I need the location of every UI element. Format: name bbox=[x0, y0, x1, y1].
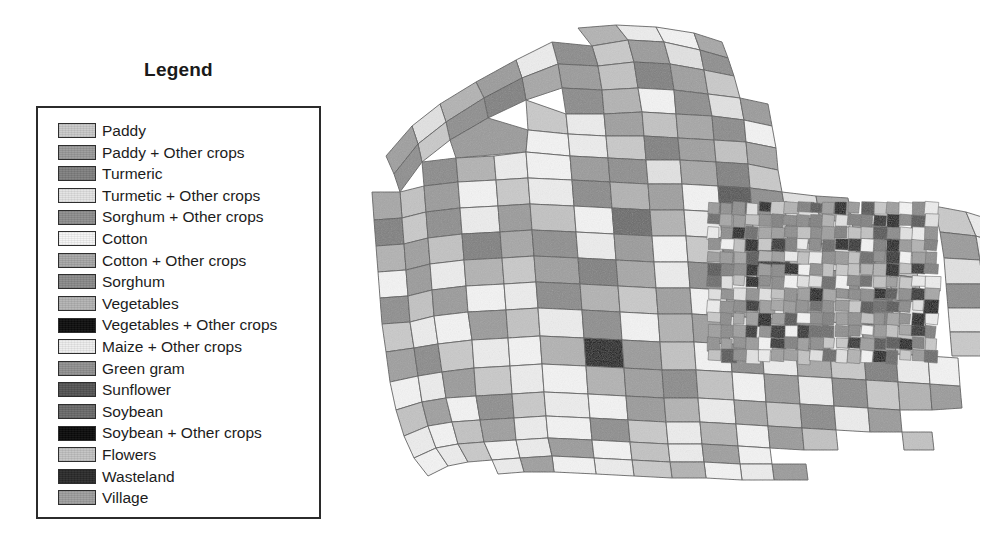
map-parcel bbox=[860, 214, 872, 226]
map-parcel bbox=[950, 332, 980, 356]
map-parcel bbox=[873, 226, 888, 240]
map-parcel bbox=[836, 288, 848, 298]
map-parcel bbox=[494, 152, 528, 180]
map-parcel bbox=[708, 350, 721, 361]
legend-item-label: Green gram bbox=[102, 361, 185, 377]
map-parcel bbox=[848, 264, 860, 277]
map-parcel bbox=[745, 239, 758, 252]
map-parcel bbox=[911, 288, 925, 302]
legend-swatch bbox=[58, 404, 96, 419]
map-parcel bbox=[746, 276, 759, 287]
map-parcel bbox=[526, 130, 570, 156]
map-parcel bbox=[540, 336, 586, 366]
map-parcel bbox=[823, 263, 835, 278]
map-parcel bbox=[707, 252, 720, 263]
map-parcel bbox=[899, 338, 913, 350]
map-parcel bbox=[588, 394, 628, 420]
legend-item-label: Sunflower bbox=[102, 382, 171, 398]
map-parcel bbox=[848, 252, 860, 265]
legend-item-label: Soybean + Other crops bbox=[102, 425, 262, 441]
map-parcel bbox=[771, 289, 785, 300]
legend-title: Legend bbox=[36, 59, 321, 81]
map-parcel bbox=[798, 350, 810, 365]
legend-swatch bbox=[58, 447, 96, 462]
map-parcel bbox=[422, 158, 458, 186]
map-parcel bbox=[925, 325, 936, 338]
map-parcel bbox=[823, 289, 837, 302]
map-parcel bbox=[746, 264, 758, 276]
swatch-texture bbox=[59, 189, 95, 202]
legend-item: Village bbox=[58, 487, 313, 509]
map-parcel bbox=[504, 282, 538, 310]
map-parcel bbox=[510, 364, 544, 394]
swatch-texture bbox=[59, 146, 95, 159]
legend-swatch bbox=[58, 469, 96, 484]
map-parcel bbox=[834, 226, 847, 238]
map-parcel bbox=[508, 336, 542, 366]
map-parcel bbox=[414, 344, 442, 376]
map-parcel bbox=[810, 288, 823, 302]
legend-item: Soybean + Other crops bbox=[58, 422, 313, 444]
map-parcel bbox=[378, 270, 408, 298]
map-parcel bbox=[800, 404, 836, 430]
map-parcel bbox=[638, 88, 676, 114]
map-parcel bbox=[746, 325, 758, 339]
map-parcel bbox=[798, 376, 834, 406]
legend-item-label: Sorghum + Other crops bbox=[102, 209, 264, 225]
map-parcel bbox=[847, 349, 861, 364]
map-parcel bbox=[698, 398, 736, 424]
map-parcel bbox=[911, 276, 926, 287]
map-parcel bbox=[492, 458, 524, 474]
legend-item: Flowers bbox=[58, 444, 313, 466]
map-parcel bbox=[868, 408, 902, 432]
legend-swatch bbox=[58, 296, 96, 311]
map-parcel bbox=[622, 340, 662, 370]
map-parcel bbox=[618, 286, 658, 314]
map-parcel bbox=[925, 214, 939, 228]
map-parcel bbox=[873, 251, 885, 262]
map-parcel bbox=[534, 256, 580, 284]
map-parcel bbox=[758, 251, 773, 262]
map-parcel bbox=[772, 239, 787, 250]
map-parcel bbox=[612, 208, 652, 236]
map-parcel bbox=[424, 182, 460, 212]
map-parcel bbox=[532, 230, 578, 258]
map-container bbox=[316, 6, 980, 546]
map-parcel bbox=[658, 314, 694, 342]
map-parcel bbox=[821, 226, 835, 241]
legend-item: Paddy bbox=[58, 120, 313, 142]
map-parcel bbox=[886, 350, 898, 364]
map-parcel bbox=[721, 276, 732, 289]
map-parcel bbox=[861, 350, 874, 363]
swatch-texture bbox=[59, 383, 95, 396]
map-parcel bbox=[432, 286, 468, 316]
map-parcel bbox=[480, 418, 516, 442]
map-parcel bbox=[578, 258, 618, 286]
map-parcel bbox=[680, 160, 718, 186]
map-parcel bbox=[809, 275, 823, 287]
map-parcel bbox=[376, 244, 406, 272]
map-parcel bbox=[733, 313, 744, 324]
map-parcel bbox=[764, 374, 800, 404]
map-parcel bbox=[678, 138, 716, 162]
map-parcel bbox=[940, 232, 980, 260]
map-parcel bbox=[898, 301, 911, 312]
map-parcel bbox=[835, 239, 849, 250]
map-parcel bbox=[548, 438, 594, 458]
map-parcel bbox=[758, 239, 772, 251]
map-parcel bbox=[598, 62, 638, 90]
map-parcel bbox=[709, 289, 722, 300]
map-parcel bbox=[720, 252, 733, 264]
map-parcel bbox=[766, 402, 802, 428]
map-parcel bbox=[498, 204, 532, 232]
map-parcel bbox=[796, 300, 808, 313]
legend-item: Soybean bbox=[58, 401, 313, 423]
map-parcel bbox=[438, 340, 474, 372]
legend-swatch bbox=[58, 426, 96, 441]
map-parcel bbox=[944, 258, 980, 284]
legend-item-label: Sorghum bbox=[102, 274, 165, 290]
map-parcel bbox=[512, 392, 546, 418]
swatch-texture bbox=[59, 254, 95, 267]
map-parcel bbox=[946, 284, 980, 308]
map-parcel bbox=[873, 276, 888, 287]
